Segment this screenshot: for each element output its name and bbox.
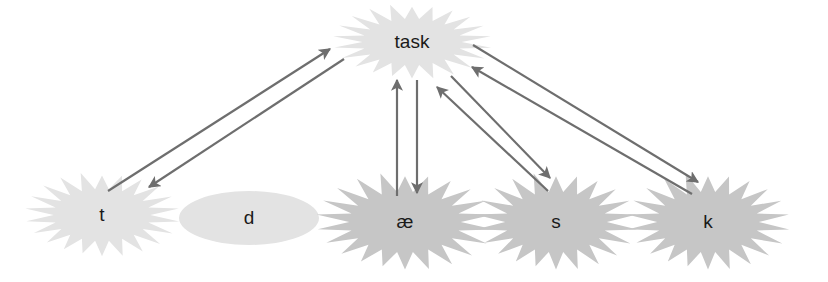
edge-task-to-t bbox=[149, 59, 344, 187]
edge-task-to-s bbox=[451, 76, 550, 178]
edges-layer bbox=[108, 45, 698, 196]
edge-s-to-task bbox=[437, 87, 548, 191]
node-t-label: t bbox=[99, 204, 105, 225]
node-ae-label: æ bbox=[397, 211, 414, 232]
node-d-label: d bbox=[244, 207, 255, 228]
phoneme-task-diagram: tasktdæsk bbox=[0, 0, 828, 282]
node-task-label: task bbox=[395, 31, 430, 52]
node-s-label: s bbox=[551, 211, 561, 232]
edge-task-to-k bbox=[473, 45, 698, 182]
edge-t-to-task bbox=[108, 49, 330, 191]
node-k-label: k bbox=[703, 211, 713, 232]
